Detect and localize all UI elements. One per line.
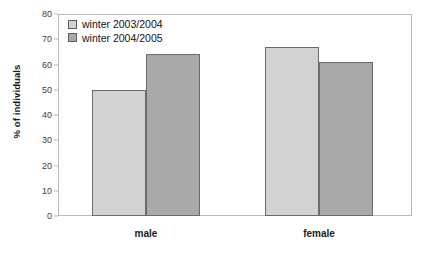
- y-tick-label: 60: [18, 60, 52, 70]
- bar-male-series1: [146, 54, 200, 216]
- legend-label: winter 2003/2004: [82, 19, 163, 30]
- y-tick-label: 40: [18, 110, 52, 120]
- y-tick-label: 80: [18, 9, 52, 19]
- bar-female-series1: [319, 62, 373, 216]
- y-tick-label: 10: [18, 186, 52, 196]
- legend-item: winter 2003/2004: [68, 19, 163, 30]
- bar-male-series0: [92, 90, 146, 216]
- bars-layer: [58, 14, 412, 216]
- legend-swatch-icon: [68, 33, 77, 42]
- bar-chart: % of individuals 01020304050607080 malef…: [0, 0, 423, 253]
- legend-label: winter 2004/2005: [82, 33, 163, 44]
- x-axis-label-female: female: [303, 228, 335, 239]
- chart-legend: winter 2003/2004winter 2004/2005: [68, 19, 163, 43]
- legend-item: winter 2004/2005: [68, 33, 163, 44]
- legend-swatch-icon: [68, 20, 77, 29]
- y-tick-label: 20: [18, 161, 52, 171]
- x-axis-label-male: male: [135, 228, 158, 239]
- y-tick-label: 70: [18, 34, 52, 44]
- y-tick-label: 30: [18, 135, 52, 145]
- y-tick-label: 0: [18, 211, 52, 221]
- y-tick-label: 50: [18, 85, 52, 95]
- bar-female-series0: [265, 47, 319, 216]
